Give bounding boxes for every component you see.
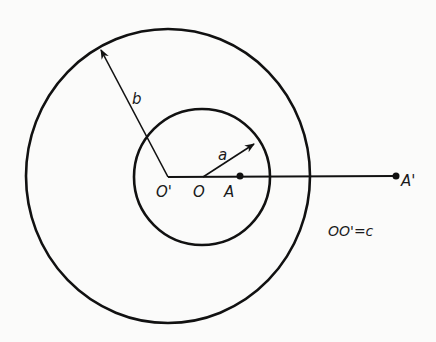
label-O-prime: O': [156, 183, 172, 201]
two-circles-diagram: b a O' O A A' OO'=c: [0, 0, 436, 342]
diagram-canvas: b a O' O A A' OO'=c: [0, 0, 436, 342]
relation-label: OO'=c: [328, 223, 374, 239]
point-A: [237, 173, 244, 180]
label-O: O: [193, 183, 205, 201]
radius-a-arrow: [203, 144, 254, 177]
label-a: a: [218, 146, 227, 164]
label-A-prime: A': [400, 172, 415, 190]
label-A: A: [223, 183, 234, 201]
axis-line: [168, 176, 396, 177]
label-b: b: [132, 90, 142, 108]
radius-b-arrow: [101, 50, 168, 177]
point-A-prime: [393, 173, 400, 180]
